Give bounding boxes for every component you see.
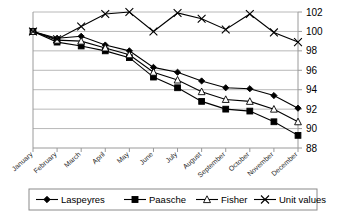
marker-x <box>270 29 278 37</box>
marker-square <box>247 108 253 114</box>
y-tick-label: 92 <box>306 104 318 115</box>
chart-axes <box>33 12 302 152</box>
series-paasche <box>30 29 301 139</box>
marker-x <box>174 9 182 17</box>
data-series-layer <box>29 8 302 138</box>
series-path <box>33 31 298 135</box>
series-path <box>33 12 298 42</box>
marker-x <box>198 15 206 23</box>
x-tick-label: January <box>10 150 34 173</box>
marker-square <box>199 98 205 104</box>
y-tick-label: 88 <box>306 143 318 154</box>
marker-triangle <box>295 118 302 125</box>
legend-label: Unit values <box>279 194 326 205</box>
x-tick-label: February <box>32 150 59 175</box>
x-tick-label: July <box>164 150 179 165</box>
marker-diamond <box>247 86 253 92</box>
marker-square <box>271 119 277 125</box>
marker-diamond <box>199 78 205 84</box>
y-tick-label: 96 <box>306 65 318 76</box>
marker-triangle <box>198 88 205 95</box>
y-tick-label: 100 <box>306 26 323 37</box>
marker-x <box>77 23 85 31</box>
chart-legend: LaspeyresPaascheFisherUnit values <box>29 189 326 210</box>
x-tick-label: August <box>181 151 203 172</box>
marker-square <box>295 132 301 138</box>
legend-label: Laspeyres <box>61 194 105 205</box>
x-axis-tick-labels: JanuaryFebruaryMarchAprilMayJuneJulyAugu… <box>10 150 299 179</box>
marker-square <box>175 85 181 91</box>
x-tick-label: May <box>116 150 132 165</box>
series-fisher <box>30 28 302 125</box>
line-chart: 889092949698100102 JanuaryFebruaryMarchA… <box>0 0 344 221</box>
y-tick-label: 102 <box>306 7 323 18</box>
x-tick-label: June <box>138 150 154 165</box>
y-tick-label: 98 <box>306 45 318 56</box>
y-tick-label: 94 <box>306 84 318 95</box>
marker-square <box>132 197 138 203</box>
x-tick-label: October <box>227 150 251 172</box>
marker-diamond <box>295 105 301 111</box>
x-tick-label: March <box>63 150 82 168</box>
legend-label: Paasche <box>149 194 186 205</box>
legend-label: Fisher <box>221 194 247 205</box>
x-tick-label: December <box>270 150 299 177</box>
y-tick-label: 90 <box>306 123 318 134</box>
chart-plot-area: 889092949698100102 JanuaryFebruaryMarchA… <box>0 0 344 221</box>
marker-x <box>222 26 230 34</box>
marker-x <box>246 10 254 18</box>
marker-triangle <box>150 69 157 76</box>
marker-square <box>223 106 229 112</box>
marker-diamond <box>271 92 277 98</box>
y-axis-tick-labels: 889092949698100102 <box>306 7 323 154</box>
x-tick-label: April <box>91 150 107 166</box>
